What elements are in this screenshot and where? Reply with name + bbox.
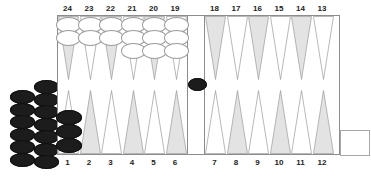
off-board-checker-left-1[interactable] [10,90,35,104]
point-label-23: 23 [78,4,100,13]
point-label-16: 16 [247,4,269,13]
off-board-checker-right-1[interactable] [34,80,59,94]
checker-white-point-19[interactable] [164,43,189,59]
point-label-11: 11 [290,158,312,167]
game-board[interactable] [57,15,340,155]
point-label-1: 1 [57,158,79,167]
point-label-18: 18 [204,4,226,13]
point-label-8: 8 [225,158,247,167]
point-label-22: 22 [100,4,122,13]
point-label-5: 5 [143,158,165,167]
point-label-13: 13 [311,4,333,13]
point-label-10: 10 [268,158,290,167]
off-board-checker-left-3[interactable] [10,115,35,129]
bear-off-tray[interactable] [340,130,370,156]
point-label-7: 7 [204,158,226,167]
checker-black-point-1[interactable] [56,124,82,139]
point-label-15: 15 [268,4,290,13]
point-label-20: 20 [143,4,165,13]
point-label-14: 14 [290,4,312,13]
point-label-21: 21 [121,4,143,13]
point-label-24: 24 [57,4,79,13]
off-board-checker-right-7[interactable] [34,155,59,169]
checker-black-point-1[interactable] [56,110,82,125]
checker-layer [58,16,339,154]
point-label-3: 3 [100,158,122,167]
checker-black-on-bar[interactable] [188,78,207,91]
point-label-6: 6 [164,158,186,167]
point-label-17: 17 [225,4,247,13]
checker-black-point-1[interactable] [56,138,82,153]
off-board-checker-left-5[interactable] [10,140,35,154]
point-label-2: 2 [78,158,100,167]
point-label-12: 12 [311,158,333,167]
backgammon-screenshot: 242322212019181716151413123456789101112 [0,0,371,178]
off-board-checker-left-6[interactable] [10,153,35,167]
point-label-19: 19 [164,4,186,13]
point-label-4: 4 [121,158,143,167]
point-label-9: 9 [247,158,269,167]
